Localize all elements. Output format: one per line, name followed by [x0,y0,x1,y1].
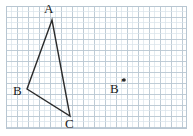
vertex-label-a: A [44,2,53,15]
triangle-abc-outline [27,20,70,116]
point-label-b-prime: B [110,82,119,95]
vertex-label-b: B [13,84,22,97]
vertex-label-c: C [65,117,74,130]
prime-mark-b-prime: ′ [121,76,124,89]
graph-figure: A B C B ′ [0,0,193,136]
figure-layer [0,0,193,136]
